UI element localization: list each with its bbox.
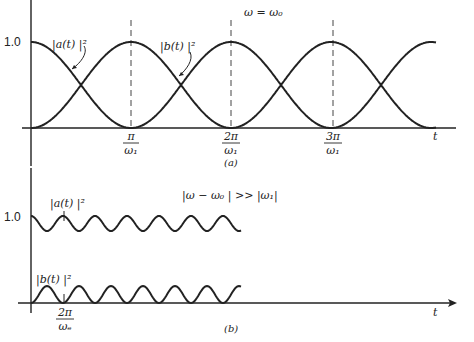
panel-a: 1.0 |a(t) |² |b(t) |² ω = ω₀ π ω₁ 2π ω₁ … (4, 0, 456, 168)
rabi-oscillation-figure: 1.0 |a(t) |² |b(t) |² ω = ω₀ π ω₁ 2π ω₁ … (0, 0, 474, 342)
x-tick-2pi-omega-e: 2π ωₑ (56, 306, 74, 333)
svg-text:2π: 2π (57, 306, 73, 319)
x-tick-pi: π ω₁ (123, 130, 139, 157)
panel-b-x-axis-label: t (433, 306, 438, 319)
svg-text:π: π (126, 130, 135, 143)
panel-a-x-axis-label: t (433, 130, 438, 143)
svg-text:2π: 2π (223, 130, 239, 143)
panel-b-condition: |ω − ω₀ | >> |ω₁| (182, 189, 278, 203)
svg-text:3π: 3π (326, 130, 341, 143)
curve-a-squared-detuned (31, 216, 241, 231)
panel-a-label-b: |b(t) |² (160, 40, 195, 54)
svg-text:ω₁: ω₁ (224, 144, 237, 157)
panel-b-y-tick-1: 1.0 (4, 210, 21, 224)
curve-a-squared (31, 42, 436, 128)
panel-b: 1.0 |a(t) |² |b(t) |² |ω − ω₀ | >> |ω₁| … (4, 168, 457, 334)
panel-b-label-a: |a(t) |² (50, 197, 85, 211)
panel-b-label-b: |b(t) |² (36, 273, 71, 287)
panel-a-caption: (a) (224, 157, 238, 168)
panel-a-y-tick-1: 1.0 (4, 35, 21, 49)
svg-text:ω₁: ω₁ (326, 144, 339, 157)
curve-b-squared-detuned (31, 286, 241, 303)
panel-a-condition: ω = ω₀ (244, 6, 283, 19)
panel-b-caption: (b) (224, 323, 238, 334)
x-tick-3pi: 3π ω₁ (324, 130, 342, 157)
curve-b-squared (31, 42, 436, 128)
panel-a-label-a: |a(t) |² (52, 38, 87, 52)
x-tick-2pi: 2π ω₁ (222, 130, 240, 157)
svg-text:ω₁: ω₁ (124, 144, 137, 157)
svg-text:ωₑ: ωₑ (58, 320, 71, 333)
